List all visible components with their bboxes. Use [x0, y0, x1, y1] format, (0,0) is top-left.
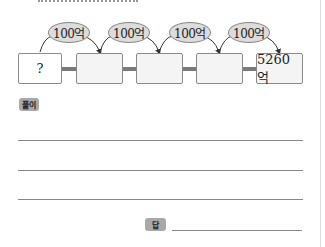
box-blank-1[interactable]	[76, 53, 123, 84]
solution-line-2[interactable]	[18, 170, 303, 171]
connector	[123, 67, 136, 71]
step-bubble: 100억	[108, 22, 150, 43]
solution-line-1[interactable]	[18, 140, 303, 141]
solution-line-3[interactable]	[18, 199, 303, 200]
connector	[183, 67, 196, 71]
box-unknown: ?	[18, 53, 62, 84]
solution-label: 풀이	[19, 98, 39, 111]
step-bubble: 100억	[169, 22, 211, 43]
step-bubble: 100억	[48, 22, 90, 43]
box-final-value: 5260억	[256, 53, 303, 84]
connector	[243, 67, 256, 71]
box-blank-2[interactable]	[136, 53, 183, 84]
connector	[62, 67, 76, 71]
number-sequence-diagram: ? 5260억 100억 100억 100억 100억	[0, 0, 325, 95]
box-blank-3[interactable]	[196, 53, 243, 84]
answer-label: 답	[145, 218, 166, 231]
step-bubble: 100억	[228, 22, 270, 43]
answer-input-line[interactable]	[172, 230, 302, 231]
